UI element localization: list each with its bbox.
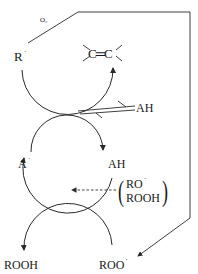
alkoxy-hydroperoxide-group: ( RO˙ ROOH ) [116,176,170,206]
alkene-label: C═C [88,47,112,60]
antioxidant-double-line [78,101,135,118]
bottom-cycle-arc [24,203,112,250]
antioxidant-ah-label: AH [108,158,125,170]
diagram-canvas [0,0,198,274]
hydroperoxide-label: ROOH [4,259,38,271]
alkoxy-radical-label: RO˙ [126,178,160,192]
right-paren: ) [162,176,168,206]
top-cycle-arc [22,68,113,115]
peroxy-radical-label: ROO˙ [99,259,128,271]
alkoxy-hydroperoxide-stack: RO˙ ROOH [126,178,160,204]
inner-hydroperoxide-label: ROOH [126,192,160,204]
antioxidant-ar-label: AH [136,102,153,114]
antioxidant-radical-label: A˙ [18,158,30,170]
oxygen-label: O₂ [40,17,48,24]
left-paren: ( [118,176,124,206]
middle-cycle-lower-arc [23,158,112,213]
middle-cycle-upper-arc [31,115,103,152]
alkyl-radical-label: R˙ [14,50,26,63]
